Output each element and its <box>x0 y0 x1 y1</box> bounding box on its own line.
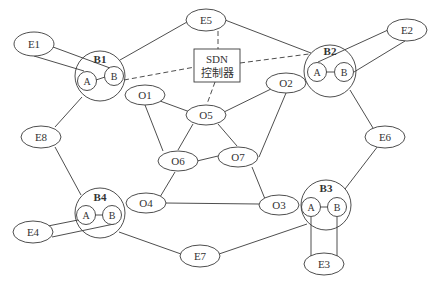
node-o3: O3 <box>259 195 299 215</box>
sdn-controller-line1: SDN <box>206 53 228 65</box>
edge-e4-b4a <box>48 220 78 226</box>
svg-text:E7: E7 <box>194 250 207 262</box>
svg-text:O6: O6 <box>171 155 185 167</box>
edge-e8-b4 <box>55 147 81 195</box>
node-o2: O2 <box>266 73 306 93</box>
svg-text:O5: O5 <box>199 109 213 121</box>
svg-text:O2: O2 <box>279 77 292 89</box>
node-o5: O5 <box>186 105 226 125</box>
node-e4: E4 <box>13 221 53 243</box>
sdn-controller: SDN 控制器 <box>194 49 240 82</box>
edge-b1-e8 <box>55 97 82 127</box>
svg-text:B: B <box>341 67 348 78</box>
edge-o4-o3 <box>165 203 259 204</box>
svg-text:O4: O4 <box>139 197 153 209</box>
node-e6: E6 <box>365 126 405 148</box>
sdn-controller-line2: 控制器 <box>201 66 234 79</box>
svg-text:B: B <box>109 210 116 221</box>
edge-o6-o4 <box>160 172 175 197</box>
svg-text:O7: O7 <box>231 151 245 163</box>
svg-text:O1: O1 <box>138 89 151 101</box>
svg-text:A: A <box>82 210 90 221</box>
node-b2: B2 A B <box>304 45 356 97</box>
node-b1: B1 A B <box>75 51 125 101</box>
svg-text:B2: B2 <box>324 45 337 57</box>
edge-o5-o2 <box>224 89 271 112</box>
edge-b1-e5 <box>120 22 187 60</box>
svg-text:B: B <box>111 71 118 82</box>
node-o1: O1 <box>125 85 165 105</box>
svg-text:E4: E4 <box>27 226 40 238</box>
svg-text:B3: B3 <box>320 182 333 194</box>
internal-nodes: O1 O2 O5 O6 O7 O4 O3 <box>125 73 306 215</box>
edge-o5-o7 <box>218 124 237 146</box>
svg-text:O3: O3 <box>272 199 286 211</box>
svg-text:E2: E2 <box>401 24 413 36</box>
edge-e2-b2b <box>354 41 405 72</box>
edge-e7-b3 <box>219 224 307 254</box>
edge-o7-o3 <box>252 167 265 199</box>
edge-o5-o6 <box>178 124 193 150</box>
node-b3: B3 A B <box>301 180 351 230</box>
edge-o6-o7 <box>197 156 218 161</box>
network-diagram: SDN 控制器 E1 E5 E2 E8 E6 E4 E7 <box>0 0 434 282</box>
node-o6: O6 <box>158 151 198 171</box>
node-e7: E7 <box>180 245 220 267</box>
edge-o1-o5 <box>160 101 190 112</box>
control-link-o5 <box>207 82 215 104</box>
svg-text:E3: E3 <box>318 258 331 270</box>
node-o4: O4 <box>126 193 166 213</box>
node-e3: E3 <box>304 253 344 275</box>
edge-e5-b2 <box>225 20 311 53</box>
svg-text:E6: E6 <box>379 131 392 143</box>
node-e8: E8 <box>21 126 61 148</box>
svg-text:A: A <box>307 202 315 213</box>
edge-b4-e7 <box>119 232 181 254</box>
control-link-b2 <box>240 54 309 63</box>
edge-o1-o6 <box>145 105 163 151</box>
svg-text:E5: E5 <box>200 14 213 26</box>
edge-o2-o7 <box>259 93 286 157</box>
svg-text:E8: E8 <box>35 131 48 143</box>
edge-b2-e6 <box>350 90 373 128</box>
edge-e4-b4b <box>52 224 114 237</box>
edge-e6-b3 <box>345 146 378 189</box>
node-b4: B4 A B <box>75 188 125 238</box>
node-e2: E2 <box>387 19 427 41</box>
svg-text:B4: B4 <box>94 191 107 203</box>
node-o7: O7 <box>218 147 258 167</box>
svg-text:A: A <box>313 67 321 78</box>
svg-text:A: A <box>83 76 91 87</box>
svg-text:E1: E1 <box>28 38 40 50</box>
svg-text:B: B <box>334 202 341 213</box>
control-link-b1 <box>124 67 195 80</box>
node-e5: E5 <box>186 9 226 31</box>
svg-text:B1: B1 <box>94 53 107 65</box>
node-e1: E1 <box>14 32 54 56</box>
